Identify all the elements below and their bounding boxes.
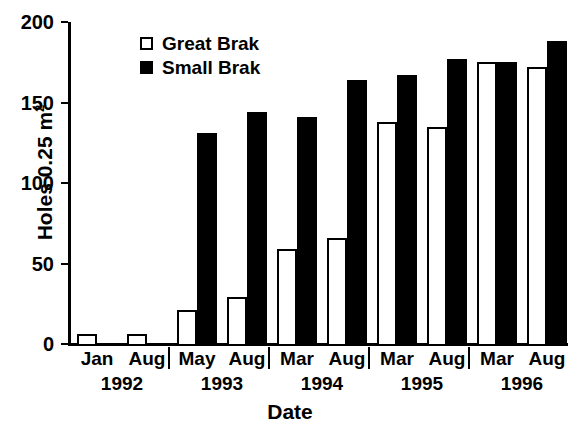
y-axis-line xyxy=(68,22,71,344)
bar-small-brak xyxy=(197,133,217,344)
y-axis-tick-label: 100 xyxy=(0,173,54,193)
legend-label-great-brak: Great Brak xyxy=(162,34,259,53)
bar-small-brak xyxy=(347,80,367,344)
bar-great-brak xyxy=(427,127,447,344)
x-axis-group-label: 1993 xyxy=(177,374,267,393)
bar-great-brak xyxy=(477,62,497,344)
x-axis-group-label: 1996 xyxy=(477,374,567,393)
bar-small-brak xyxy=(497,62,517,344)
bar-great-brak xyxy=(527,67,547,344)
y-axis-tick-label: 0 xyxy=(0,334,54,354)
y-axis-tick-label: 200 xyxy=(0,12,54,32)
y-axis-tick xyxy=(61,263,68,265)
legend-label-small-brak: Small Brak xyxy=(162,58,260,77)
x-axis-group-label: 1994 xyxy=(277,374,367,393)
y-axis-tick-label: 50 xyxy=(0,254,54,274)
y-axis-tick xyxy=(61,182,68,184)
legend-swatch-open-icon xyxy=(140,37,153,50)
bar-great-brak xyxy=(227,297,247,344)
y-axis-tick xyxy=(61,343,68,345)
x-axis-group-label: 1995 xyxy=(377,374,467,393)
bar-great-brak xyxy=(127,334,147,344)
bar-great-brak xyxy=(177,310,197,344)
legend-item-small-brak: Small Brak xyxy=(140,56,260,78)
bar-small-brak xyxy=(247,112,267,344)
bar-small-brak xyxy=(397,75,417,344)
bar-chart-figure: Holes 0.25 m2 050100150200 JanAugMayAugM… xyxy=(0,0,580,433)
bar-great-brak xyxy=(277,249,297,344)
y-axis-tick xyxy=(61,21,68,23)
y-axis-tick-label: 150 xyxy=(0,93,54,113)
bar-great-brak xyxy=(77,334,97,344)
y-axis-tick xyxy=(61,102,68,104)
x-axis-group-label: 1992 xyxy=(77,374,167,393)
bar-small-brak xyxy=(297,117,317,344)
bar-great-brak xyxy=(377,122,397,344)
legend: Great Brak Small Brak xyxy=(140,32,260,80)
x-axis-tick-label: Aug xyxy=(517,349,577,368)
x-axis-title: Date xyxy=(0,400,580,424)
legend-swatch-filled-icon xyxy=(140,61,153,74)
bar-small-brak xyxy=(547,41,567,344)
legend-item-great-brak: Great Brak xyxy=(140,32,260,54)
bar-great-brak xyxy=(327,238,347,344)
bar-small-brak xyxy=(447,59,467,344)
